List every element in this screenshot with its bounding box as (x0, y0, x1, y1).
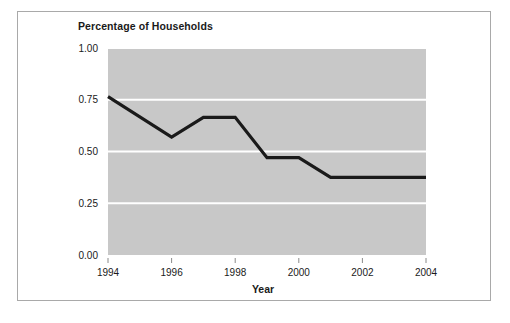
x-axis-tick-labels: 199419961998200020022004 (97, 267, 438, 278)
y-axis-tick-labels: 0.000.250.500.751.00 (79, 43, 99, 261)
x-axis-title-label: Year (252, 283, 274, 295)
y-axis-tick-label: 1.00 (79, 43, 99, 54)
x-axis-tick-label: 2000 (288, 267, 311, 278)
y-axis-tick-label: 0.25 (79, 198, 99, 209)
x-axis-tick-label: 2002 (351, 267, 374, 278)
x-axis-tick-marks (108, 258, 426, 263)
y-axis-tick-label: 0.75 (79, 94, 99, 105)
x-axis-tick-label: 2004 (415, 267, 438, 278)
x-axis-tick-label: 1998 (224, 267, 247, 278)
x-axis-tick-label: 1994 (97, 267, 120, 278)
line-chart: 0.000.250.500.751.00 1994199619982000200… (0, 0, 510, 323)
y-axis-tick-label: 0.50 (79, 146, 99, 157)
y-axis-tick-label: 0.00 (79, 250, 99, 261)
x-axis-tick-label: 1996 (160, 267, 183, 278)
x-axis-title: Year (0, 283, 510, 295)
